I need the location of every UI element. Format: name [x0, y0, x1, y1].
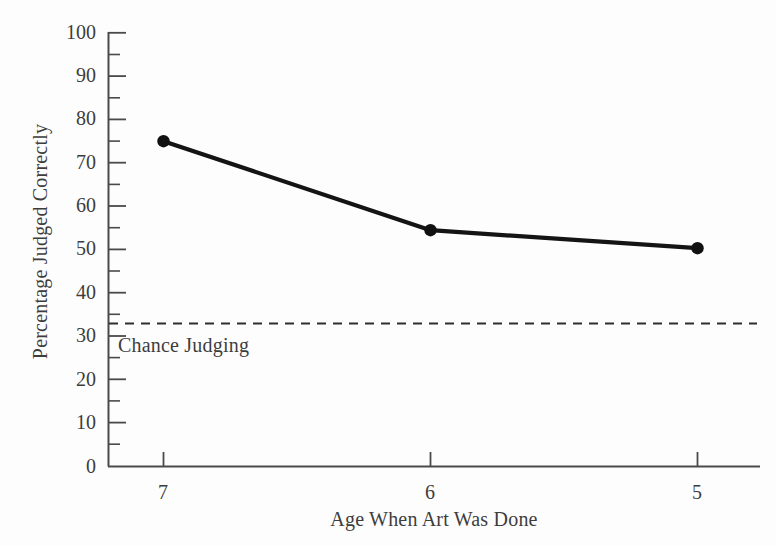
- y-tick-0: 0: [38, 456, 96, 476]
- x-axis-title: Age When Art Was Done: [108, 508, 760, 531]
- chance-judging-label: Chance Judging: [118, 334, 249, 357]
- x-tick-label: 6: [400, 480, 460, 504]
- x-tick-5: 5: [667, 480, 727, 504]
- data-point-marker: [424, 224, 436, 236]
- x-tick-7: 7: [133, 480, 193, 504]
- x-tick-6: 6: [400, 480, 460, 504]
- y-tick-label: 0: [38, 456, 96, 476]
- chart-canvas: [0, 0, 776, 546]
- y-axis-title: Percentage Judged Correctly: [29, 82, 52, 402]
- x-tick-label: 7: [133, 480, 193, 504]
- y-tick-100: 100: [38, 22, 96, 42]
- y-tick-label: 100: [38, 22, 96, 42]
- y-tick-label: 10: [38, 412, 96, 432]
- y-tick-10: 10: [38, 412, 96, 432]
- x-tick-label: 5: [667, 480, 727, 504]
- plot-area: 100 90 80 70 60 50 40 30 20 10 0: [0, 0, 776, 546]
- data-point-markers: [157, 135, 703, 254]
- x-ticks: [164, 452, 698, 466]
- data-point-marker: [691, 242, 703, 254]
- data-point-marker: [157, 135, 169, 147]
- chart-page: 100 90 80 70 60 50 40 30 20 10 0: [0, 0, 776, 546]
